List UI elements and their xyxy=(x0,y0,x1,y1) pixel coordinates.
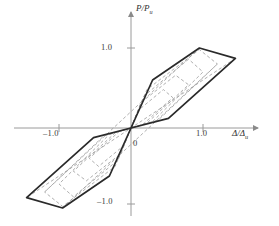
origin-label: 0 xyxy=(133,138,137,148)
x-axis-title-main: Δ/Δ xyxy=(232,128,245,138)
x-tick-label-positive-one: 1.0 xyxy=(196,128,207,138)
y-tick-label-positive-one: 1.0 xyxy=(101,42,112,52)
unload-chord-b xyxy=(45,48,200,192)
x-axis-title-subscript: u xyxy=(245,133,248,140)
x-axis-title: Δ/Δu xyxy=(232,128,248,140)
y-axis-title-main: P/P xyxy=(136,3,150,13)
plot-canvas xyxy=(0,0,279,226)
y-axis-title-subscript: u xyxy=(150,8,153,15)
hysteresis-chart-figure: 1.0 –1.0 1.0 –1.0 0 P/Pu Δ/Δu xyxy=(0,0,279,226)
x-tick-label-negative-one: –1.0 xyxy=(43,128,59,138)
y-tick-label-negative-one: –1.0 xyxy=(97,196,113,206)
axis-lines xyxy=(14,12,258,216)
y-axis-title: P/Pu xyxy=(136,3,153,15)
